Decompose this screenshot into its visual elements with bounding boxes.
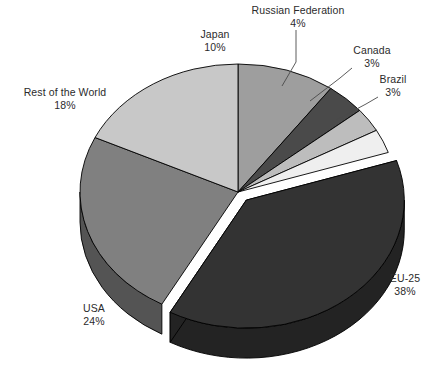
slice-label-canada: Canada 3% bbox=[336, 44, 408, 69]
slice-label-eu-25-value: 38% bbox=[374, 285, 436, 298]
pie-chart: Japan 10% Russian Federation 4% Canada 3… bbox=[0, 0, 444, 373]
slice-label-brazil: Brazil 3% bbox=[362, 73, 424, 98]
slice-label-canada-value: 3% bbox=[336, 57, 408, 70]
slice-label-brazil-value: 3% bbox=[362, 86, 424, 99]
slice-label-japan-value: 10% bbox=[170, 41, 260, 54]
slice-label-usa-value: 24% bbox=[58, 315, 130, 328]
slice-label-rest-of-the-world: Rest of the World 18% bbox=[2, 86, 128, 111]
slice-label-brazil-name: Brazil bbox=[362, 73, 424, 86]
slice-label-eu-25-name: EU-25 bbox=[374, 272, 436, 285]
slice-label-japan-name: Japan bbox=[170, 28, 260, 41]
slice-label-russian-federation-name: Russian Federation bbox=[233, 4, 363, 17]
slice-label-japan: Japan 10% bbox=[170, 28, 260, 53]
slice-label-canada-name: Canada bbox=[336, 44, 408, 57]
slice-label-rest-of-the-world-value: 18% bbox=[2, 99, 128, 112]
slice-label-usa-name: USA bbox=[58, 302, 130, 315]
slice-label-rest-of-the-world-name: Rest of the World bbox=[2, 86, 128, 99]
slice-label-russian-federation-value: 4% bbox=[233, 17, 363, 30]
slice-label-usa: USA 24% bbox=[58, 302, 130, 327]
slice-label-eu-25: EU-25 38% bbox=[374, 272, 436, 297]
slice-label-russian-federation: Russian Federation 4% bbox=[233, 4, 363, 29]
